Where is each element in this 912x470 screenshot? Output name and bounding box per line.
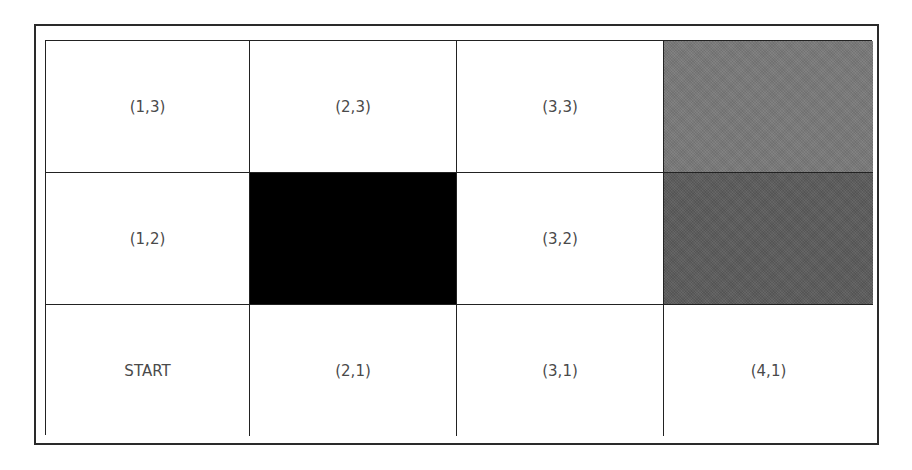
cell-label: START	[124, 362, 170, 380]
gridworld: (1,3) (2,3) (3,3) (1,2) (3,2) START (2,1…	[45, 40, 872, 435]
cell-2-3: (2,3)	[250, 41, 457, 173]
cell-label: (2,1)	[335, 362, 371, 380]
cell-start: START	[46, 305, 250, 436]
cell-label: (3,1)	[542, 362, 578, 380]
cell-label: (3,2)	[542, 230, 578, 248]
cell-label: (4,1)	[751, 362, 787, 380]
cell-label: (1,3)	[130, 98, 166, 116]
cell-label: (3,3)	[542, 98, 578, 116]
cell-1-3: (1,3)	[46, 41, 250, 173]
cell-2-2-wall	[250, 173, 457, 305]
cell-4-2-pit	[664, 173, 873, 305]
cell-label: (1,2)	[130, 230, 166, 248]
cell-label: (2,3)	[335, 98, 371, 116]
cell-4-3-goal	[664, 41, 873, 173]
cell-4-1: (4,1)	[664, 305, 873, 436]
cell-2-1: (2,1)	[250, 305, 457, 436]
cell-3-3: (3,3)	[457, 41, 664, 173]
cell-3-1: (3,1)	[457, 305, 664, 436]
cell-1-2: (1,2)	[46, 173, 250, 305]
cell-3-2: (3,2)	[457, 173, 664, 305]
